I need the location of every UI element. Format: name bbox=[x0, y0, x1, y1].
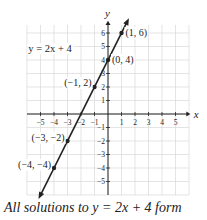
x-axis-label: x bbox=[193, 108, 199, 120]
point-label: (−1, 2) bbox=[64, 77, 91, 89]
x-tick-label: −3 bbox=[64, 118, 72, 127]
point-label: (−3, −2) bbox=[32, 132, 65, 144]
x-tick-label: −5 bbox=[37, 118, 45, 127]
y-axis-label: y bbox=[104, 7, 110, 19]
data-point bbox=[52, 166, 56, 170]
data-point bbox=[92, 85, 96, 89]
x-axis-arrow-icon bbox=[186, 112, 190, 117]
point-label: (1, 6) bbox=[126, 27, 148, 39]
equation-label: y = 2x + 4 bbox=[28, 43, 72, 54]
y-tick-label: −5 bbox=[97, 177, 105, 186]
x-tick-label: 2 bbox=[133, 118, 137, 127]
x-tick-label: 5 bbox=[174, 118, 178, 127]
y-tick-label: 5 bbox=[101, 42, 105, 51]
y-tick-label: 6 bbox=[101, 29, 105, 38]
point-label: (−4, −4) bbox=[18, 159, 51, 171]
y-tick-label: 2 bbox=[101, 83, 105, 92]
y-tick-label: −3 bbox=[97, 150, 105, 159]
line-arrow-up-icon bbox=[123, 18, 129, 26]
point-label: (0, 4) bbox=[112, 54, 134, 66]
y-tick-label: 4 bbox=[101, 56, 105, 65]
x-tick-label: 1 bbox=[120, 118, 124, 127]
y-tick-label: −4 bbox=[97, 164, 105, 173]
coordinate-plot: xy−5−4−3−2−112345−5−4−3−2−1123456(1, 6)(… bbox=[0, 0, 207, 200]
y-tick-label: −1 bbox=[97, 123, 105, 132]
data-point bbox=[106, 58, 110, 62]
y-tick-label: −2 bbox=[97, 137, 105, 146]
data-point bbox=[119, 31, 123, 35]
data-point bbox=[65, 139, 69, 143]
y-axis-arrow-icon bbox=[106, 21, 111, 25]
x-tick-label: 3 bbox=[147, 118, 151, 127]
x-tick-label: 4 bbox=[160, 118, 164, 127]
x-tick-label: −4 bbox=[50, 118, 58, 127]
figure-caption: All solutions to y = 2x + 4 form bbox=[4, 200, 207, 216]
y-tick-label: 1 bbox=[101, 96, 105, 105]
